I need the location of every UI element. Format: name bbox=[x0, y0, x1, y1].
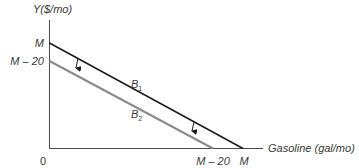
x-tick-M: M bbox=[239, 155, 249, 167]
y-tick-M: M bbox=[35, 37, 45, 49]
x-tick-M-minus-20: M – 20 bbox=[196, 155, 231, 167]
y-axis-label: Y($/mo) bbox=[33, 3, 72, 15]
shift-arrow-right-icon bbox=[192, 122, 194, 131]
y-tick-M-minus-20: M – 20 bbox=[10, 55, 45, 67]
shift-arrows bbox=[76, 58, 194, 131]
budget-line-b2 bbox=[50, 61, 214, 149]
budget-constraint-diagram: Y($/mo) Gasoline (gal/mo) 0 M M – 20 M –… bbox=[0, 0, 359, 168]
axes bbox=[50, 20, 264, 149]
x-axis-label: Gasoline (gal/mo) bbox=[268, 142, 355, 154]
label-b1: B1 bbox=[131, 78, 142, 92]
shift-arrow-left-icon bbox=[76, 58, 78, 68]
budget-line-b1 bbox=[50, 43, 244, 149]
origin-label: 0 bbox=[40, 155, 46, 167]
